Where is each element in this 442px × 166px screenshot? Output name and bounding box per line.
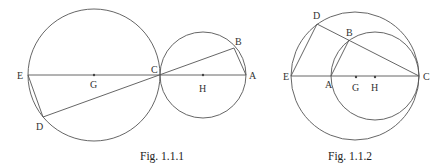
figure-1-1-2: D B E A G H C Fig. 1.1.2 bbox=[283, 10, 430, 163]
label-h: H bbox=[371, 82, 378, 93]
label-d: D bbox=[313, 10, 320, 21]
label-c: C bbox=[423, 71, 430, 82]
caption-fig-1-1-1: Fig. 1.1.1 bbox=[140, 150, 184, 163]
point-g bbox=[355, 76, 357, 78]
label-e: E bbox=[283, 71, 289, 82]
label-a: A bbox=[325, 79, 333, 90]
label-b: B bbox=[346, 27, 353, 38]
line-dc bbox=[317, 24, 419, 76]
label-a: A bbox=[249, 70, 257, 81]
point-h bbox=[202, 74, 204, 76]
label-c: C bbox=[151, 64, 158, 75]
label-h: H bbox=[199, 83, 206, 94]
line-ed bbox=[28, 75, 43, 117]
label-e: E bbox=[17, 70, 23, 81]
point-h bbox=[374, 76, 376, 78]
label-g: G bbox=[90, 79, 97, 90]
label-d: D bbox=[36, 121, 43, 132]
geometry-diagrams: E G C H A B D Fig. 1.1.1 D B E A G H C F… bbox=[0, 0, 442, 166]
caption-fig-1-1-2: Fig. 1.1.2 bbox=[328, 150, 372, 163]
label-g: G bbox=[352, 82, 359, 93]
label-b: B bbox=[235, 36, 242, 47]
line-ab bbox=[331, 40, 349, 76]
point-g bbox=[93, 74, 95, 76]
line-ed bbox=[291, 24, 317, 76]
figure-1-1-1: E G C H A B D Fig. 1.1.1 bbox=[17, 9, 257, 163]
